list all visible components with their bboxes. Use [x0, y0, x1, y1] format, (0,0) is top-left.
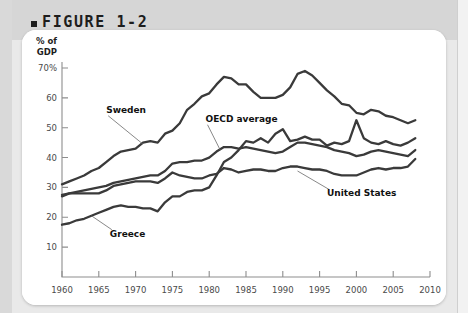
- series-line-sweden: [62, 71, 415, 184]
- x-tick-label: 1975: [162, 285, 184, 295]
- page-right-gutter: [457, 0, 468, 323]
- x-tick-label: 2005: [382, 285, 404, 295]
- y-tick-label: 10: [46, 242, 57, 252]
- page-bottom-gutter: [0, 313, 468, 323]
- series-label-greece: Greece: [110, 229, 145, 239]
- x-tick-label: 1970: [125, 285, 147, 295]
- y-axis-caption-line2: GDP: [37, 47, 57, 57]
- leader-line-united-states: [298, 171, 329, 189]
- page-left-gutter: [0, 0, 12, 323]
- y-tick-label: 50: [46, 123, 57, 133]
- chart-card: 10203040506070%% ofGDP196019651970197519…: [22, 30, 446, 305]
- y-tick-label: 60: [46, 93, 57, 103]
- x-tick-label: 1965: [88, 285, 110, 295]
- y-tick-label: 70%: [38, 63, 57, 73]
- leader-line-greece: [91, 216, 111, 230]
- y-tick-label: 20: [46, 212, 57, 222]
- y-tick-label: 30: [46, 182, 57, 192]
- series-label-oecd-average: OECD average: [206, 114, 278, 124]
- series-label-sweden: Sweden: [106, 105, 146, 115]
- figure-root: FIGURE 1-2 10203040506070%% ofGDP1960196…: [0, 0, 468, 323]
- x-tick-label: 1985: [235, 285, 257, 295]
- y-axis-caption-line1: % of: [36, 36, 57, 46]
- y-tick-label: 40: [46, 153, 57, 163]
- x-tick-label: 1995: [309, 285, 331, 295]
- x-tick-label: 1980: [198, 285, 220, 295]
- chart-card-inner: 10203040506070%% ofGDP196019651970197519…: [22, 30, 446, 305]
- series-label-united-states: United States: [327, 188, 396, 198]
- leader-line-sweden: [108, 116, 143, 144]
- figure-title: FIGURE 1-2: [42, 13, 148, 31]
- leader-line-oecd-average: [208, 125, 221, 150]
- x-tick-label: 1960: [51, 285, 73, 295]
- x-tick-label: 2000: [346, 285, 368, 295]
- x-tick-label: 1990: [272, 285, 294, 295]
- line-chart: 10203040506070%% ofGDP196019651970197519…: [22, 30, 446, 305]
- x-tick-label: 2010: [419, 285, 441, 295]
- figure-bullet-icon: [31, 21, 37, 27]
